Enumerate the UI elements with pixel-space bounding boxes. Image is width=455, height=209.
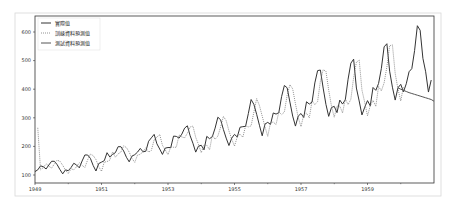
y-tick-label: 300 — [21, 115, 31, 121]
x-tick-label: 1955 — [228, 186, 241, 192]
y-tick-label: 600 — [21, 29, 31, 35]
x-tick-label: 1959 — [361, 186, 374, 192]
x-tick-label: 1953 — [162, 186, 175, 192]
y-tick-label: 400 — [21, 86, 31, 92]
x-tick-label: 1957 — [295, 186, 308, 192]
y-tick-label: 200 — [21, 143, 31, 149]
legend: 實際值 訓練資料預測值 測試資料預測值 — [38, 18, 100, 50]
y-tick-label: 100 — [21, 172, 31, 178]
x-tick-label: 1949 — [29, 186, 42, 192]
x-tick-label: 1951 — [95, 186, 108, 192]
legend-label-test: 測試資料預測值 — [55, 40, 90, 47]
legend-label-train: 訓練資料預測值 — [55, 30, 90, 37]
chart: 100200300400500600 194919511953195519571… — [0, 0, 455, 209]
y-tick-label: 500 — [21, 57, 31, 63]
legend-label-actual: 實際值 — [55, 20, 70, 27]
